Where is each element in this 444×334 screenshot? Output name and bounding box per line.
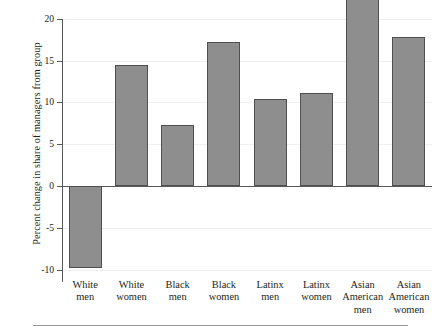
x-label-line: Asian xyxy=(340,279,386,291)
y-tick-15 xyxy=(57,61,62,62)
x-label-line: Black xyxy=(201,279,247,291)
x-label-line: men xyxy=(247,291,293,303)
x-label-line: men xyxy=(340,304,386,316)
x-label-line: women xyxy=(108,291,154,303)
footer-rule xyxy=(33,325,408,326)
x-label-line: American xyxy=(386,291,432,303)
y-tick-label-minus5: -5 xyxy=(14,223,54,233)
bar-latinx-women xyxy=(300,93,333,186)
y-tick-label-15: 15 xyxy=(14,56,54,66)
bar-white-men xyxy=(69,186,102,268)
gridline-minus10 xyxy=(63,270,432,271)
plot-area: 20 15 10 5 0 -5 -10 xyxy=(62,8,432,274)
x-label-asian-american-women: AsianAmericanwomen xyxy=(386,279,432,316)
bar-chart-figure: Percent change in share of managers from… xyxy=(0,0,444,334)
x-label-line: men xyxy=(155,291,201,303)
x-label-line: women xyxy=(201,291,247,303)
bar-black-men xyxy=(161,125,194,186)
gridline-minus5 xyxy=(63,228,432,229)
x-label-line: Latinx xyxy=(247,279,293,291)
y-tick-label-20: 20 xyxy=(14,14,54,24)
x-label-white-men: Whitemen xyxy=(62,279,108,304)
x-label-line: women xyxy=(293,291,339,303)
x-label-line: White xyxy=(62,279,108,291)
y-tick-20 xyxy=(57,19,62,20)
x-axis-category-labels: WhitemenWhitewomenBlackmenBlackwomenLati… xyxy=(62,279,432,325)
x-label-asian-american-men: AsianAmericanmen xyxy=(340,279,386,316)
x-label-line: Black xyxy=(155,279,201,291)
x-label-line: Asian xyxy=(386,279,432,291)
y-tick-10 xyxy=(57,102,62,103)
y-tick-label-minus10: -10 xyxy=(14,265,54,275)
bar-asian-american-women xyxy=(392,37,425,186)
bar-latinx-men xyxy=(254,99,287,186)
x-label-black-men: Blackmen xyxy=(155,279,201,304)
y-tick-label-0: 0 xyxy=(14,181,54,191)
x-label-line: American xyxy=(340,291,386,303)
y-axis-line xyxy=(62,19,63,282)
x-label-line: men xyxy=(62,291,108,303)
zero-baseline xyxy=(63,186,432,187)
y-tick-label-10: 10 xyxy=(14,97,54,107)
bar-asian-american-men xyxy=(346,0,379,186)
x-label-latinx-women: Latinxwomen xyxy=(293,279,339,304)
x-label-white-women: Whitewomen xyxy=(108,279,154,304)
x-label-line: Latinx xyxy=(293,279,339,291)
x-label-latinx-men: Latinxmen xyxy=(247,279,293,304)
y-tick-minus5 xyxy=(57,228,62,229)
y-tick-label-5: 5 xyxy=(14,139,54,149)
x-label-line: women xyxy=(386,304,432,316)
y-tick-0 xyxy=(57,186,62,187)
y-tick-5 xyxy=(57,144,62,145)
x-label-line: White xyxy=(108,279,154,291)
x-label-black-women: Blackwomen xyxy=(201,279,247,304)
y-tick-minus10 xyxy=(57,270,62,271)
bar-white-women xyxy=(115,65,148,186)
bar-black-women xyxy=(207,42,240,187)
